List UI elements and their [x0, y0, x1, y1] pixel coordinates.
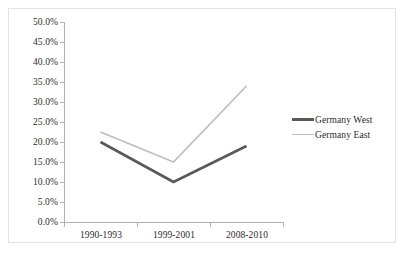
legend-line-swatch-germany-east	[292, 134, 314, 136]
legend-line-swatch-germany-west	[292, 118, 314, 121]
legend-item-germany-west: Germany West	[292, 112, 396, 127]
legend-label-germany-west: Germany West	[315, 114, 373, 126]
legend-item-germany-east: Germany East	[292, 127, 396, 142]
legend-label-germany-east: Germany East	[315, 129, 370, 141]
chart-container: 0.0%5.0%10.0%15.0%20.0%25.0%30.0%35.0%40…	[0, 0, 405, 257]
chart-legend: Germany West Germany East	[292, 112, 396, 142]
series-line-germany-east	[101, 86, 247, 162]
